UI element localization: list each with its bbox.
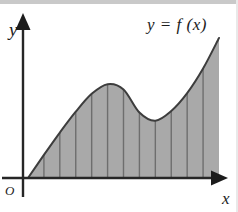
- origin-label: O: [5, 184, 14, 197]
- x-axis-label: x: [222, 190, 230, 207]
- y-axis-arrow-icon: [16, 13, 31, 30]
- y-axis-label: y: [9, 20, 17, 39]
- function-graph-figure: y x O y = f (x): [0, 0, 238, 212]
- x-axis-arrow-icon: [211, 171, 228, 186]
- curve-equation-label: y = f (x): [147, 16, 207, 33]
- y-axis: [16, 13, 31, 197]
